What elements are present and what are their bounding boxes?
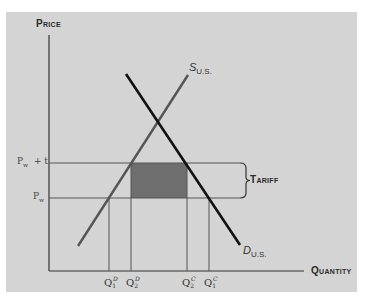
demand-curve <box>126 74 240 245</box>
q2c-label: Q2C <box>182 276 196 289</box>
pw-label: Pw <box>33 192 44 203</box>
q2d-label: Q2D <box>126 276 140 289</box>
x-axis-label: Quantity <box>311 266 352 276</box>
tariff-revenue-area <box>131 163 187 198</box>
demand-label: DU.S. <box>243 245 267 259</box>
tariff-label: Tariff <box>250 175 279 185</box>
supply-curve <box>78 75 188 246</box>
tariff-brace-icon <box>240 163 250 198</box>
q1d-label: Q1D <box>104 276 118 289</box>
y-axis-label: Price <box>36 19 61 29</box>
q1c-label: Q1C <box>204 276 218 289</box>
pw-plus-t-label: Pw + t <box>17 157 48 168</box>
supply-label: SU.S. <box>189 62 212 76</box>
chart-svg <box>0 0 367 307</box>
